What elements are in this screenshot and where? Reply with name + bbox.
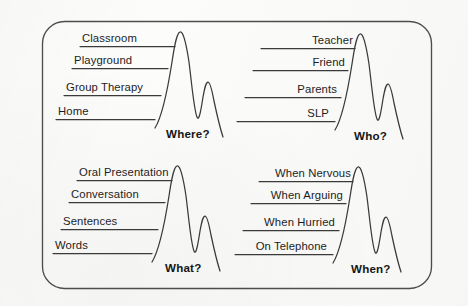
question-who: Who?: [354, 130, 387, 142]
mountain-who: [335, 34, 403, 139]
label-what-oral-presentation: Oral Presentation: [79, 167, 169, 178]
label-when-on-telephone: On Telephone: [229, 241, 327, 252]
label-what-words: Words: [55, 240, 88, 251]
label-what-conversation: Conversation: [71, 189, 139, 200]
question-when: When?: [351, 263, 391, 275]
mountain-when: [333, 167, 401, 272]
label-who-friend: Friend: [247, 57, 345, 68]
label-who-parents: Parents: [239, 84, 337, 95]
diagram-canvas: [0, 0, 468, 306]
label-who-teacher: Teacher: [255, 35, 353, 46]
label-who-slp: SLP: [231, 108, 329, 119]
mountain-where: [155, 32, 223, 137]
question-where: Where?: [166, 128, 210, 140]
diagram-page: Classroom Playground Group Therapy Home …: [0, 0, 468, 306]
question-what: What?: [165, 262, 201, 274]
label-where-playground: Playground: [74, 55, 132, 66]
label-when-hurried: When Hurried: [237, 217, 335, 228]
label-what-sentences: Sentences: [63, 216, 117, 227]
label-when-arguing: When Arguing: [245, 190, 343, 201]
label-where-classroom: Classroom: [82, 33, 137, 44]
label-where-home: Home: [58, 106, 89, 117]
label-where-group-therapy: Group Therapy: [66, 82, 143, 93]
label-when-nervous: When Nervous: [253, 168, 351, 179]
mountain-what: [152, 166, 220, 271]
